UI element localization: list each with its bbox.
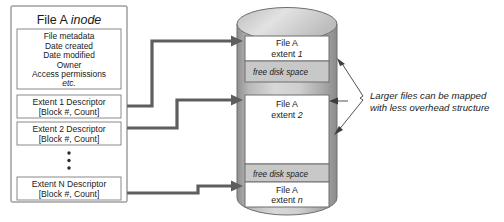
extent-descriptor-1-detail: [Block #, Count]: [39, 107, 100, 117]
extent-descriptor-2-detail: [Block #, Count]: [39, 134, 100, 144]
free-space-label: free disk space: [253, 170, 309, 179]
free-space-label: free disk space: [253, 68, 309, 77]
connector-extent-n: [126, 186, 231, 193]
extent-connectors: [126, 36, 243, 194]
segment-label-line2: extent 1: [271, 49, 302, 59]
metadata-etc: etc.: [62, 78, 76, 88]
segment-label-line1: File A: [276, 38, 298, 48]
callout-joint: [360, 96, 363, 100]
inode-heading: File A inode: [37, 13, 102, 27]
callout-arrowhead-upper: [337, 58, 345, 66]
callout-leader-lower: [338, 100, 363, 131]
extent-descriptor-2-name: Extent 2 Descriptor: [32, 124, 105, 134]
extent-descriptor-1-name: Extent 1 Descriptor: [32, 97, 105, 107]
metadata-line: Date created: [45, 41, 93, 51]
disk-segments: File A extent 1 free disk space File A e…: [245, 36, 329, 207]
diagram-canvas: File A extent 1 free disk space File A e…: [0, 0, 504, 222]
connector-extent-1: [126, 41, 231, 106]
segment-label-line2: extent n: [271, 195, 302, 205]
descriptor-ellipsis: [67, 151, 70, 169]
segment-label-line2: extent 2: [271, 110, 302, 120]
extent-descriptor-n-detail: [Block #, Count]: [39, 189, 100, 199]
connector-extent-2: [126, 100, 231, 128]
annotation-callout: Larger files can be mapped with less ove…: [329, 58, 489, 135]
callout-leader-upper: [341, 62, 363, 96]
annotation-line-2: with less overhead structure: [370, 102, 489, 113]
segment-label-line1: File A: [276, 99, 298, 109]
annotation-line-1: Larger files can be mapped: [370, 90, 487, 101]
segment-label-line1: File A: [276, 185, 298, 195]
metadata-line: Date modified: [43, 50, 95, 60]
metadata-line: Owner: [57, 60, 82, 70]
extent-mapping-diagram: File A extent 1 free disk space File A e…: [0, 0, 504, 222]
metadata-line: File metadata: [44, 31, 95, 41]
inode-block: File A inode File metadata Date created …: [11, 6, 127, 202]
extent-descriptor-n-name: Extent N Descriptor: [32, 179, 107, 189]
